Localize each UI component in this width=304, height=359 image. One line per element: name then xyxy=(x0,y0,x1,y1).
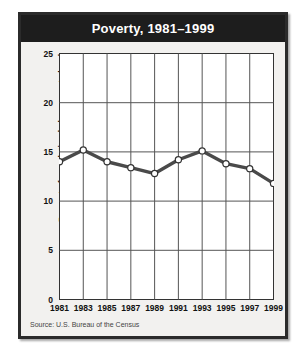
chart-title-bar: Poverty, 1981–1999 xyxy=(21,15,285,42)
y-tick-10: 10 xyxy=(29,196,53,206)
x-tick-1999: 1999 xyxy=(261,303,287,313)
data-point-1999 xyxy=(270,180,274,186)
poverty-chart-figure: Poverty, 1981–1999 Percent of population… xyxy=(0,0,304,359)
line-chart-svg xyxy=(59,53,274,300)
data-point-1991 xyxy=(175,157,181,163)
data-point-1993 xyxy=(199,148,205,154)
x-tick-1981: 1981 xyxy=(47,303,73,313)
x-axis-tick-labels: 1981198319851987198919911993199519971999 xyxy=(59,303,277,319)
y-axis-tick-labels: 0510152025 xyxy=(29,53,57,300)
plot-area xyxy=(59,53,274,300)
data-point-1987 xyxy=(128,165,134,171)
source-note: Source: U.S. Bureau of the Census xyxy=(30,321,139,328)
data-point-1989 xyxy=(152,170,158,176)
chart-frame: Poverty, 1981–1999 Percent of population… xyxy=(18,12,288,339)
x-tick-1991: 1991 xyxy=(165,303,191,313)
y-tick-5: 5 xyxy=(29,245,53,255)
y-tick-20: 20 xyxy=(29,98,53,108)
data-point-1985 xyxy=(104,159,110,165)
x-tick-1993: 1993 xyxy=(189,303,215,313)
x-tick-1997: 1997 xyxy=(237,303,263,313)
y-tick-15: 15 xyxy=(29,147,53,157)
data-point-1983 xyxy=(80,147,86,153)
x-tick-1983: 1983 xyxy=(70,303,96,313)
x-tick-1987: 1987 xyxy=(118,303,144,313)
data-point-1997 xyxy=(247,166,253,172)
x-tick-1985: 1985 xyxy=(94,303,120,313)
data-point-1981 xyxy=(59,159,63,165)
y-tick-25: 25 xyxy=(29,49,53,59)
page-title: Poverty, 1981–1999 xyxy=(92,21,215,36)
x-tick-1989: 1989 xyxy=(142,303,168,313)
data-point-1995 xyxy=(223,161,229,167)
plot-background xyxy=(60,54,274,300)
x-tick-1995: 1995 xyxy=(213,303,239,313)
